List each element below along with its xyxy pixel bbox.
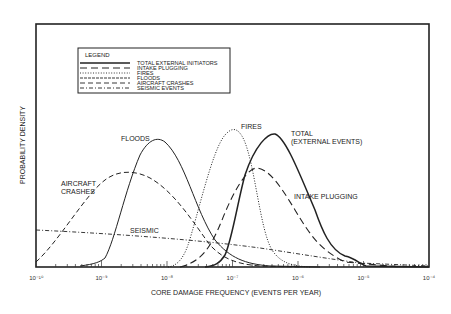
y-axis-title: PROBABILITY DENSITY xyxy=(19,106,26,184)
x-axis-title: CORE DAMAGE FREQUENCY (EVENTS PER YEAR) xyxy=(151,289,321,297)
floods-label: FLOODS xyxy=(121,135,150,142)
aircraft-label-line2: CRASHES xyxy=(61,188,95,195)
total-label-line1: TOTAL xyxy=(291,130,313,137)
intake-plugging-label: INTAKE PLUGGING xyxy=(294,193,358,200)
x-tick-label: 10⁻⁴ xyxy=(423,275,436,281)
legend-title: LEGEND xyxy=(85,52,110,58)
x-tick-label: 10⁻⁸ xyxy=(161,275,174,281)
x-tick-label: 10⁻⁹ xyxy=(95,275,108,281)
seismic-label: SEISMIC xyxy=(130,227,159,234)
floods-curve xyxy=(80,139,320,267)
fires-label: FIRES xyxy=(241,123,262,130)
x-tick-label: 10⁻⁶ xyxy=(292,275,305,281)
legend: LEGEND TOTAL EXTERNAL INITIATORS INTAKE … xyxy=(78,48,230,93)
legend-label: SEISMIC EVENTS xyxy=(137,85,184,91)
aircraft-label-line1: AIRCRAFT xyxy=(61,180,97,187)
x-tick-label: 10⁻⁷ xyxy=(227,275,239,281)
x-tick-label: 10⁻⁵ xyxy=(357,275,370,281)
curves xyxy=(36,130,429,267)
total-label-line2: (EXTERNAL EVENTS) xyxy=(291,138,362,146)
x-tick-label: 10⁻¹⁰ xyxy=(29,275,44,281)
chart: 10⁻¹⁰ 10⁻⁹ 10⁻⁸ 10⁻⁷ 10⁻⁶ 10⁻⁵ 10⁻⁴ CORE… xyxy=(0,0,451,314)
x-tick-labels: 10⁻¹⁰ 10⁻⁹ 10⁻⁸ 10⁻⁷ 10⁻⁶ 10⁻⁵ 10⁻⁴ xyxy=(29,275,435,281)
total-curve xyxy=(205,134,429,267)
